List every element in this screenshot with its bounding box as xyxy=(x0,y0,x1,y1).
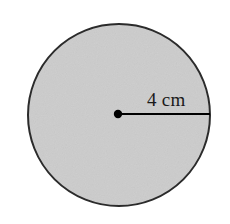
geometry-figure: 4 cm xyxy=(0,0,230,224)
center-dot xyxy=(114,110,122,118)
circle-diagram-canvas xyxy=(0,0,230,224)
radius-measure-label: 4 cm xyxy=(147,90,186,109)
